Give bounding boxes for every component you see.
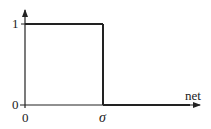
- x-tick-label-sigma: σ: [99, 110, 107, 125]
- x-tick-label-0: 0: [22, 110, 29, 125]
- y-tick-label-0: 0: [12, 97, 19, 112]
- x-axis-label-net: net: [185, 88, 201, 103]
- y-tick-label-1: 1: [12, 16, 19, 31]
- step-function-diagram: 1 0 0 σ net: [0, 0, 211, 129]
